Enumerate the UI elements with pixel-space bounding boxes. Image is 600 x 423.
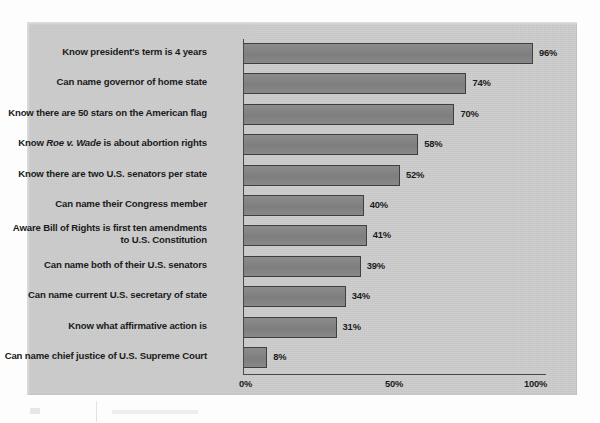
bar-category-label: Can name chief justice of U.S. Supreme C… [2,350,207,362]
bar-track: 96% [243,39,545,69]
bar [243,43,533,64]
bar-track: 34% [243,282,545,312]
bar-category-label: Know there are two U.S. senators per sta… [2,168,207,180]
bar-category-label: Can name current U.S. secretary of state [2,289,207,301]
bar-track: 31% [243,313,545,343]
bar-value-label: 41% [373,229,391,240]
bar [243,104,454,125]
y-axis-line [243,39,244,375]
bar-category-label: Know Roe v. Wade is about abortion right… [2,137,207,149]
bar-row: Aware Bill of Rights is first ten amendm… [27,221,545,251]
bar-track: 41% [243,221,545,251]
x-axis-tick-0: 0% [239,378,252,389]
bar-row: Can name governor of home state74% [27,69,545,99]
bar [243,256,361,277]
bar-row: Know president's term is 4 years96% [27,39,545,69]
bar-category-label: Can name their Congress member [2,198,207,210]
bar-value-label: 74% [472,77,490,88]
bar-row: Can name both of their U.S. senators39% [27,252,545,282]
bar-track: 58% [243,130,545,160]
bar-value-label: 34% [352,290,370,301]
caption-artifact-text [112,410,198,414]
bar-track: 8% [243,343,545,373]
bar-row: Know what affirmative action is31% [27,313,545,343]
bar [243,317,337,338]
bar-category-label: Can name both of their U.S. senators [2,259,207,271]
bar [243,225,367,246]
bar-track: 39% [243,252,545,282]
bar-value-label: 96% [539,47,557,58]
bar-row: Know Roe v. Wade is about abortion right… [27,130,545,160]
bar-value-label: 58% [424,138,442,149]
bar-category-label: Aware Bill of Rights is first ten amendm… [2,222,207,245]
bar-track: 74% [243,69,545,99]
bar [243,165,400,186]
x-axis-tick-50: 50% [385,378,403,389]
bar-value-label: 52% [406,169,424,180]
bar-category-label: Can name governor of home state [2,76,207,88]
bar-track: 52% [243,161,545,191]
bar [243,134,418,155]
bar-category-label: Know president's term is 4 years [2,46,207,58]
bar-track: 40% [243,191,545,221]
bar-value-label: 40% [370,199,388,210]
bar-category-label: Know there are 50 stars on the American … [2,107,207,119]
bar-chart-plot-area: Know president's term is 4 years96%Can n… [27,22,577,395]
bar-row: Know there are two U.S. senators per sta… [27,161,545,191]
bar-category-label: Know what affirmative action is [2,320,207,332]
bar-track: 70% [243,100,545,130]
figure-canvas: Know president's term is 4 years96%Can n… [0,0,600,423]
bar [243,347,267,368]
bar-row: Can name their Congress member40% [27,191,545,221]
x-axis-tick-100: 100% [524,378,547,389]
bar-row: Know there are 50 stars on the American … [27,100,545,130]
bar [243,195,364,216]
bar-value-label: 31% [343,321,361,332]
bar-value-label: 8% [273,351,286,362]
x-axis-line [243,374,546,375]
caption-rule [96,401,97,422]
bar [243,73,466,94]
bar-row: Can name chief justice of U.S. Supreme C… [27,343,545,373]
bar-value-label: 70% [460,108,478,119]
bar-value-label: 39% [367,260,385,271]
bar [243,286,346,307]
caption-artifact [30,408,40,414]
bar-row: Can name current U.S. secretary of state… [27,282,545,312]
